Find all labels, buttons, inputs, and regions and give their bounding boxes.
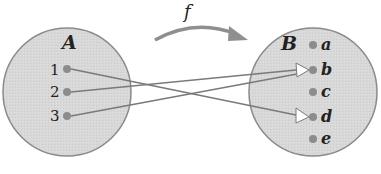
function-arrow	[155, 26, 248, 41]
element-e: e	[321, 129, 331, 148]
dot-1	[63, 65, 71, 73]
dot-a	[309, 41, 317, 49]
element-1: 1	[50, 61, 60, 79]
element-3: 3	[50, 107, 60, 125]
element-a: a	[321, 35, 331, 54]
set-b: B a b c d e	[249, 28, 377, 156]
element-c: c	[321, 82, 331, 101]
dot-b	[309, 66, 317, 74]
dot-e	[309, 135, 317, 143]
arrowhead-icon	[228, 26, 248, 41]
dot-c	[309, 88, 317, 96]
element-b: b	[321, 60, 332, 79]
element-2: 2	[50, 83, 60, 101]
dot-2	[63, 88, 71, 96]
set-b-label: B	[280, 32, 297, 54]
set-a: A 1 2 3	[3, 28, 131, 156]
function-mapping-diagram: f A 1 2 3 B a b c d e	[0, 0, 381, 174]
element-d: d	[321, 107, 332, 126]
dot-d	[309, 113, 317, 121]
dot-3	[63, 112, 71, 120]
set-a-label: A	[60, 31, 77, 53]
function-label: f	[182, 1, 194, 22]
